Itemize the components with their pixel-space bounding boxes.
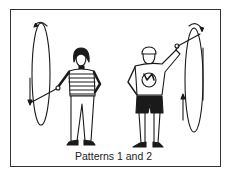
- figure-caption: Patterns 1 and 2: [0, 150, 227, 162]
- left-figure: [56, 48, 100, 145]
- right-rope-loop: [181, 24, 204, 132]
- right-figure: [128, 34, 200, 147]
- left-rope-loop: [28, 22, 58, 125]
